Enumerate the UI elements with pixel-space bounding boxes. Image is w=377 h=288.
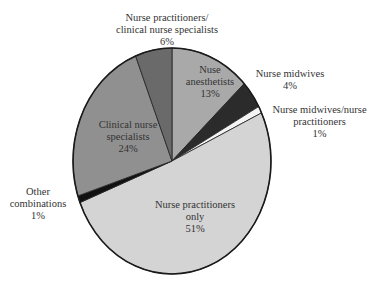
label-nm-np: Nurse midwives/nurse practitioners 1% — [262, 104, 377, 140]
label-text: anesthetists — [175, 76, 245, 88]
label-nurse-midwives: Nurse midwives 4% — [245, 68, 335, 92]
label-pct: 51% — [140, 223, 250, 235]
label-pct: 1% — [0, 210, 76, 222]
label-text: specialists — [78, 131, 178, 143]
label-text: Nuse — [175, 64, 245, 76]
label-text: combinations — [0, 198, 76, 210]
label-other-combinations: Other combinations 1% — [0, 186, 76, 222]
label-text: Nurse midwives/nurse — [262, 104, 377, 116]
label-text: Nurse practitioners/ — [92, 12, 242, 24]
label-text: Nurse practitioners — [140, 199, 250, 211]
label-cns: Clinical nurse specialists 24% — [78, 119, 178, 155]
label-text: only — [140, 211, 250, 223]
label-pct: 6% — [92, 36, 242, 48]
label-text: clinical nurse specialists — [92, 24, 242, 36]
label-np-cns: Nurse practitioners/ clinical nurse spec… — [92, 12, 242, 48]
label-text: Other — [0, 186, 76, 198]
label-text: practitioners — [262, 116, 377, 128]
label-pct: 24% — [78, 143, 178, 155]
label-np-only: Nurse practitioners only 51% — [140, 199, 250, 235]
label-text: Nurse midwives — [245, 68, 335, 80]
label-pct: 1% — [262, 128, 377, 140]
label-pct: 4% — [245, 80, 335, 92]
label-text: Clinical nurse — [78, 119, 178, 131]
label-nurse-anesthetists: Nuse anesthetists 13% — [175, 64, 245, 100]
label-pct: 13% — [175, 88, 245, 100]
